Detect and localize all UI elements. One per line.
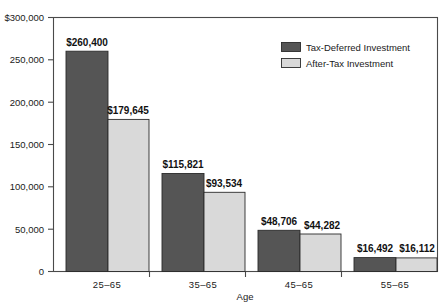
y-tick-label-150000: 150,000 — [10, 139, 44, 150]
bar-group-45-65: $48,706 $44,282 45–65 — [258, 216, 341, 290]
bar-tax-deferred-55-65[interactable] — [354, 258, 396, 272]
bar-value-label-tax-deferred-35-65: $115,821 — [162, 159, 204, 170]
y-tick-label-50000: 50,000 — [15, 224, 44, 235]
bar-group-25-65: $260,400 $179,645 25–65 — [66, 37, 149, 290]
y-tick-label-100000: 100,000 — [10, 181, 44, 192]
bar-tax-deferred-25-65[interactable] — [66, 51, 108, 271]
bar-group-35-65: $115,821 $93,534 35–65 — [162, 159, 245, 290]
bar-value-label-after-tax-35-65: $93,534 — [206, 178, 243, 189]
bar-after-tax-25-65[interactable] — [108, 119, 149, 271]
bar-value-label-tax-deferred-25-65: $260,400 — [66, 37, 108, 48]
x-category-label-25-65: 25–65 — [93, 279, 121, 290]
bar-tax-deferred-35-65[interactable] — [162, 174, 204, 272]
y-tick-labels: $300,000 250,000 200,000 150,000 100,000… — [4, 12, 44, 277]
bar-chart: $300,000 250,000 200,000 150,000 100,000… — [0, 0, 444, 303]
x-category-label-45-65: 45–65 — [285, 279, 313, 290]
legend: Tax-Deferred Investment After-Tax Invest… — [282, 42, 411, 69]
x-tickmarks — [150, 272, 342, 278]
x-category-label-35-65: 35–65 — [189, 279, 217, 290]
bar-value-label-after-tax-55-65: $16,112 — [399, 243, 435, 254]
legend-swatch-after-tax — [282, 59, 301, 68]
x-axis-title: Age — [237, 291, 254, 302]
y-tickmarks — [48, 18, 54, 272]
chart-canvas: $300,000 250,000 200,000 150,000 100,000… — [0, 0, 444, 303]
y-tick-label-300000: $300,000 — [4, 12, 44, 23]
bar-after-tax-35-65[interactable] — [204, 192, 245, 271]
bar-after-tax-55-65[interactable] — [396, 258, 437, 272]
bar-value-label-tax-deferred-45-65: $48,706 — [261, 216, 298, 227]
bar-tax-deferred-45-65[interactable] — [258, 230, 300, 271]
bar-value-label-tax-deferred-55-65: $16,492 — [357, 243, 394, 254]
bar-value-label-after-tax-25-65: $179,645 — [107, 105, 149, 116]
bar-group-55-65: $16,492 $16,112 55–65 — [354, 243, 437, 290]
legend-label-tax-deferred[interactable]: Tax-Deferred Investment — [306, 42, 410, 53]
bar-value-label-after-tax-45-65: $44,282 — [304, 220, 341, 231]
y-tick-label-250000: 250,000 — [10, 54, 44, 65]
legend-swatch-tax-deferred — [282, 43, 301, 52]
y-tick-label-200000: 200,000 — [10, 97, 44, 108]
legend-label-after-tax[interactable]: After-Tax Investment — [306, 58, 393, 69]
x-category-label-55-65: 55–65 — [381, 279, 409, 290]
bar-after-tax-45-65[interactable] — [300, 234, 341, 272]
y-tick-label-0: 0 — [39, 266, 44, 277]
